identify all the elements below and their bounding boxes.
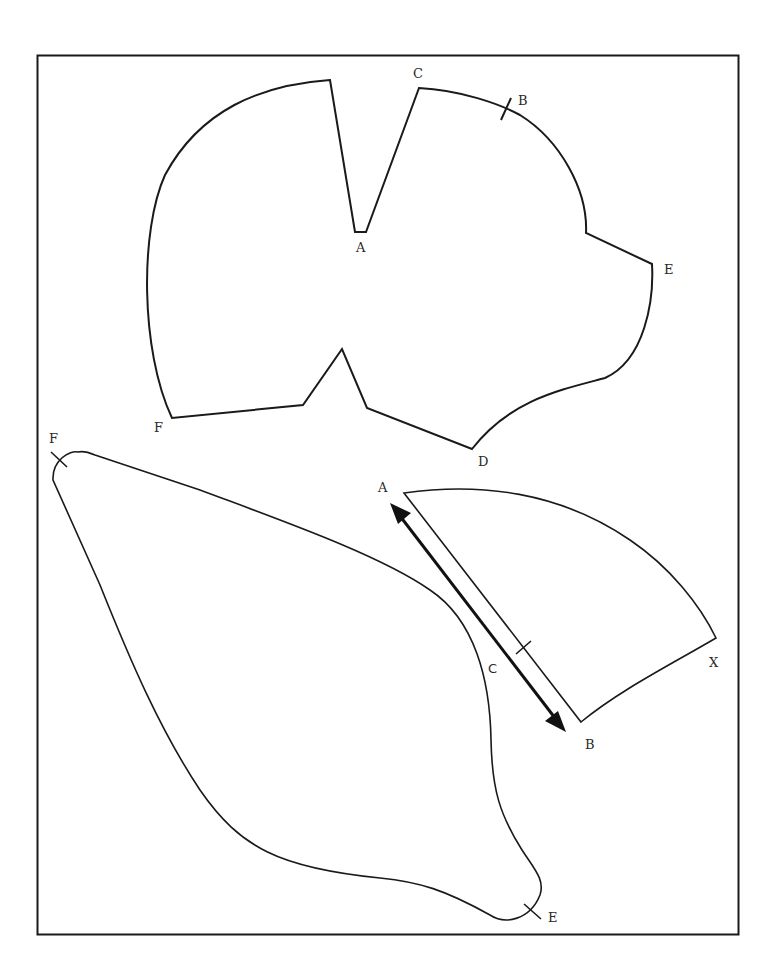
label-b-quarter: B [585,738,595,751]
grainline-arrow [390,503,566,732]
quarter-pattern-piece [404,489,716,722]
label-b-top: B [518,94,528,107]
page-frame [38,56,739,935]
label-c-large: C [488,662,497,675]
label-f-top: F [154,421,163,434]
arrowhead-down-icon [545,711,566,732]
label-c-top: C [413,67,423,80]
notch-c [516,641,531,654]
label-e-top: E [664,263,674,276]
label-d-top: D [478,455,488,468]
label-a-quarter: A [378,481,387,494]
large-pattern-piece [51,452,541,920]
notch-f [51,452,67,467]
top-pattern-piece [147,80,652,449]
notch-e [524,904,541,919]
label-a-top: A [356,241,365,254]
label-e-large: E [548,911,558,924]
label-f-large: F [49,432,58,445]
arrowhead-up-icon [390,503,411,524]
label-x-quarter: X [709,656,718,669]
